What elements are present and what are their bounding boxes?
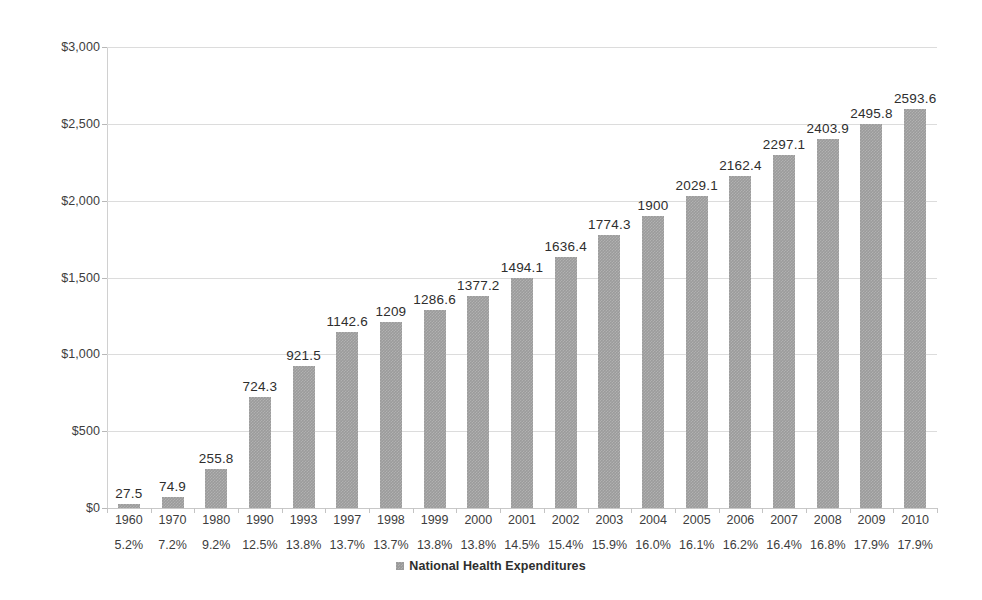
bar[interactable] [205,469,227,508]
bar[interactable] [860,124,882,508]
x-axis-year-label: 1990 [238,513,282,527]
x-axis-percent-label: 17.9% [893,538,937,552]
x-axis-year-label: 2005 [675,513,719,527]
bar-group: 1636.4 [544,47,588,508]
x-axis-percent-label: 13.8% [456,538,500,552]
x-axis-percent-label: 13.7% [325,538,369,552]
x-axis-percent-label: 14.5% [500,538,544,552]
x-axis-percent-label: 9.2% [194,538,238,552]
x-axis-percent-label: 15.9% [588,538,632,552]
x-axis-year-label: 1993 [282,513,326,527]
x-axis-percent-label: 13.7% [369,538,413,552]
x-axis-percent-label: 13.8% [282,538,326,552]
bar[interactable] [293,366,315,508]
bar-value-label: 2593.6 [894,91,937,106]
bar-value-label: 1494.1 [501,260,544,275]
bar[interactable] [424,310,446,508]
bar[interactable] [686,196,708,508]
bar-value-label: 724.3 [242,379,277,394]
bar-group: 27.5 [107,47,151,508]
x-axis-percent-label: 16.2% [719,538,763,552]
bar-value-label: 27.5 [115,486,142,501]
bar-group: 74.9 [151,47,195,508]
x-axis-year-label: 2007 [762,513,806,527]
bar-series-national-health-expenditures: 27.574.9255.8724.3921.51142.612091286.61… [107,47,937,508]
x-axis-percent-label: 16.4% [762,538,806,552]
bar-value-label: 1286.6 [413,292,456,307]
bar[interactable] [380,322,402,508]
bar-value-label: 1900 [638,198,669,213]
bar[interactable] [162,497,184,509]
y-axis-tick-label: $500 [22,424,100,438]
bar-value-label: 921.5 [286,348,321,363]
bar-value-label: 2162.4 [719,158,762,173]
y-axis-tick-label: $2,000 [22,194,100,208]
x-axis-year-label: 1999 [413,513,457,527]
bar[interactable] [817,139,839,508]
bar-value-label: 255.8 [199,451,234,466]
x-axis-year-label: 2010 [893,513,937,527]
x-axis-year-label: 2008 [806,513,850,527]
bar-group: 2403.9 [806,47,850,508]
bar[interactable] [249,397,271,508]
bar-group: 255.8 [194,47,238,508]
bar-chart: $0$500$1,000$1,500$2,000$2,500$3,000 27.… [0,0,982,600]
y-axis-tick-label: $2,500 [22,117,100,131]
x-axis-percent-label: 15.4% [544,538,588,552]
bar-group: 724.3 [238,47,282,508]
y-axis-tick-label: $1,500 [22,271,100,285]
x-axis-year-label: 1997 [325,513,369,527]
bar-value-label: 74.9 [159,479,186,494]
bar-value-label: 1209 [376,304,407,319]
bar-group: 2593.6 [893,47,937,508]
bar[interactable] [467,296,489,508]
x-axis-year-label: 1970 [151,513,195,527]
bar[interactable] [773,155,795,508]
bar[interactable] [904,109,926,508]
bar-group: 1286.6 [413,47,457,508]
bar[interactable] [729,176,751,508]
x-axis-percent-label: 13.8% [413,538,457,552]
x-axis-year-label: 1998 [369,513,413,527]
x-axis-year-label: 1980 [194,513,238,527]
x-axis-year-label: 2006 [719,513,763,527]
bar[interactable] [555,257,577,508]
bar-group: 921.5 [282,47,326,508]
bar-value-label: 1377.2 [457,278,500,293]
bar-group: 1209 [369,47,413,508]
x-axis-year-label: 2000 [456,513,500,527]
legend-swatch-icon [396,562,404,570]
bar-value-label: 1142.6 [326,314,368,329]
bar-value-label: 1774.3 [588,217,631,232]
x-axis-percent-label: 7.2% [151,538,195,552]
bar[interactable] [511,278,533,508]
y-axis-tick-label: $3,000 [22,40,100,54]
bar-group: 1900 [631,47,675,508]
bar-group: 1774.3 [588,47,632,508]
bar-group: 1377.2 [456,47,500,508]
bar[interactable] [598,235,620,508]
bar-group: 2162.4 [719,47,763,508]
x-axis-percent-label: 16.8% [806,538,850,552]
bar-value-label: 2403.9 [807,121,850,136]
x-axis-tick-mark [937,508,938,513]
bar[interactable] [642,216,664,508]
bar-group: 2495.8 [850,47,894,508]
x-axis-percent-label: 16.0% [631,538,675,552]
x-axis-year-label: 2001 [500,513,544,527]
x-axis-year-label: 2009 [850,513,894,527]
bar-group: 1494.1 [500,47,544,508]
bar[interactable] [336,332,358,508]
y-axis-tick-label: $1,000 [22,347,100,361]
bar-value-label: 1636.4 [544,239,587,254]
x-axis-year-label: 1960 [107,513,151,527]
bar-group: 1142.6 [325,47,369,508]
x-axis-percent-label: 5.2% [107,538,151,552]
y-axis-tick-label: $0 [22,501,100,515]
x-axis-percent-label: 17.9% [850,538,894,552]
legend-label: National Health Expenditures [409,559,585,573]
bar-value-label: 2029.1 [675,178,718,193]
x-axis-percent-label: 16.1% [675,538,719,552]
chart-legend: National Health Expenditures [0,559,982,573]
bar-group: 2297.1 [762,47,806,508]
